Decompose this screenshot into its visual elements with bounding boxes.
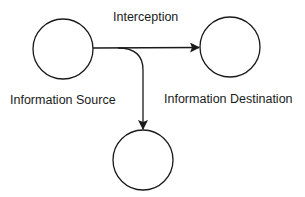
interception-label: Interception [113, 10, 178, 24]
source-label: Information Source [10, 93, 116, 107]
edge-source-to-destination [93, 48, 199, 49]
destination-label: Information Destination [164, 92, 293, 106]
interceptor-node [113, 130, 173, 190]
edge-source-to-interceptor [118, 48, 143, 129]
diagram-canvas: Interception Information Source Informat… [0, 0, 305, 197]
source-node [33, 19, 93, 79]
destination-node [200, 17, 260, 77]
